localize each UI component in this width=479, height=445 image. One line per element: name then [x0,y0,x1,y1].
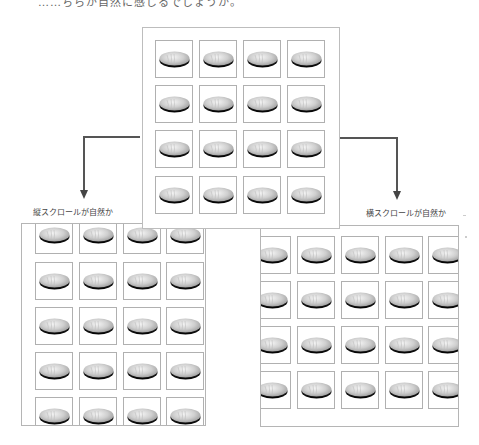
grid-tile [243,130,281,168]
bowl-icon [345,292,376,309]
bowl-icon [301,382,332,399]
bowl-icon [260,382,288,399]
bowl-icon [159,96,190,113]
bowl-icon [247,51,278,68]
bowl-icon [203,187,234,204]
arrow-line-vertical [396,137,398,192]
vertical-scroll-panel[interactable] [21,223,206,426]
bowl-icon [432,292,459,309]
grid-tile [428,326,459,364]
grid-tile [79,397,117,426]
bowl-icon [39,408,70,425]
bowl-icon [389,382,420,399]
grid-tile [341,281,379,319]
grid-tile [35,352,73,390]
bowl-icon [345,337,376,354]
bowl-icon [291,187,322,204]
bowl-icon [260,292,288,309]
bowl-icon [345,247,376,264]
grid-tile [260,236,291,274]
bowl-icon [159,187,190,204]
grid-tile [428,281,459,319]
bowl-icon [345,382,376,399]
grid-tile [385,326,423,364]
bowl-icon [127,227,158,244]
grid-tile [287,176,325,214]
grid-tile [297,326,335,364]
grid-tile [199,40,237,78]
scan-artifact [463,215,466,216]
label-horizontal-scroll: 横スクロールが自然か [366,207,446,218]
bowl-icon [389,292,420,309]
bowl-icon [291,51,322,68]
grid-tile [123,352,161,390]
horizontal-scroll-panel[interactable] [260,225,459,427]
center-grid-panel [142,27,340,229]
grid-tile [123,262,161,300]
bowl-icon [39,227,70,244]
bowl-icon [203,141,234,158]
bowl-icon [170,408,201,425]
grid-tile [123,307,161,345]
bowl-icon [260,337,288,354]
bowl-icon [127,408,158,425]
bowl-icon [247,141,278,158]
bowl-icon [170,318,201,335]
grid-tile [428,236,459,274]
grid-tile [297,236,335,274]
grid-tile [428,371,459,409]
bowl-icon [39,273,70,290]
grid-tile [35,223,73,254]
bowl-icon [291,141,322,158]
bowl-icon [83,273,114,290]
bowl-icon [83,408,114,425]
bowl-icon [39,318,70,335]
grid-tile [260,326,291,364]
bowl-icon [432,247,459,264]
scan-artifact [465,236,467,238]
grid-tile [123,397,161,426]
grid-tile [341,326,379,364]
grid-tile [287,130,325,168]
bowl-icon [170,227,201,244]
grid-tile [166,307,204,345]
grid-tile [341,371,379,409]
label-vertical-scroll: 縦スクロールが自然か [33,206,113,217]
arrow-line-horizontal [340,137,398,139]
top-caption: ……ちらが自然に感じるでしょうか。 [38,0,242,9]
grid-tile [155,176,193,214]
grid-tile [243,85,281,123]
bowl-icon [247,96,278,113]
grid-tile [35,397,73,426]
grid-tile [79,352,117,390]
bowl-icon [389,247,420,264]
grid-tile [199,130,237,168]
bowl-icon [432,382,459,399]
grid-tile [199,176,237,214]
grid-tile [35,307,73,345]
bowl-icon [83,318,114,335]
grid-tile [79,223,117,254]
grid-tile [385,281,423,319]
bowl-icon [301,337,332,354]
grid-tile [297,281,335,319]
grid-tile [260,281,291,319]
grid-tile [35,262,73,300]
grid-tile [166,352,204,390]
bowl-icon [127,363,158,380]
bowl-icon [301,247,332,264]
grid-tile [385,236,423,274]
bowl-icon [203,51,234,68]
bowl-icon [247,187,278,204]
grid-tile [79,307,117,345]
bowl-icon [159,51,190,68]
bowl-icon [432,337,459,354]
bowl-icon [83,227,114,244]
bowl-icon [170,273,201,290]
grid-tile [166,397,204,426]
grid-tile [199,85,237,123]
bowl-icon [203,96,234,113]
grid-tile [155,40,193,78]
bowl-icon [291,96,322,113]
bowl-icon [127,273,158,290]
